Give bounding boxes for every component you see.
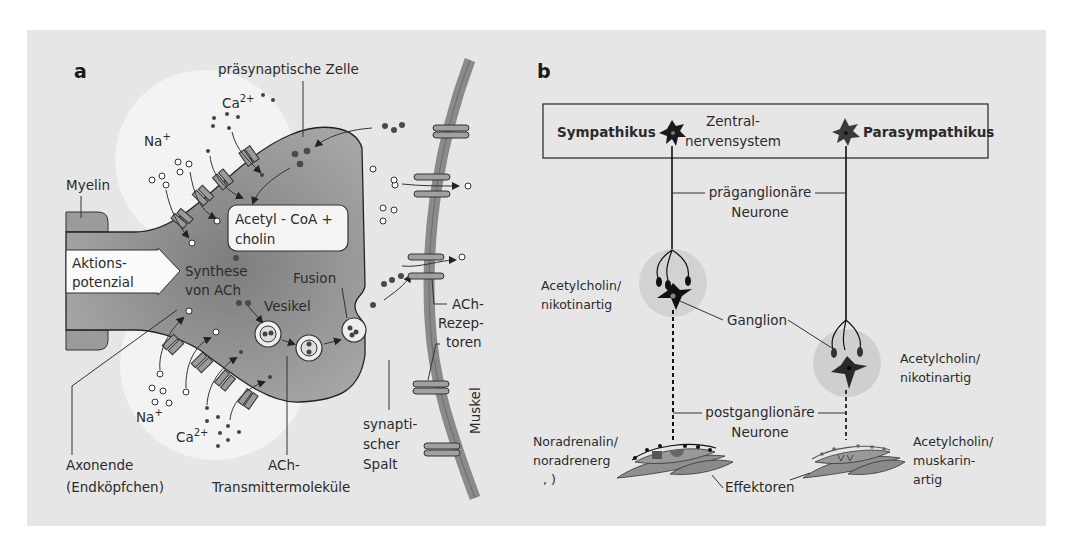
acetyl-coa-label-line1: Acetyl - CoA + xyxy=(235,211,333,227)
sympathikus-label: Sympathikus xyxy=(557,124,656,140)
synthese-label-line2: von ACh xyxy=(185,282,241,298)
acetyl-coa-label-line2: cholin xyxy=(235,231,275,247)
muskel-label: Muskel xyxy=(467,387,483,434)
synthese-label-line1: Synthese xyxy=(185,263,248,279)
vesicle-2 xyxy=(296,335,322,361)
postganglionic-label-line1: postganglionäre xyxy=(705,404,814,420)
noradrenalin-label-line1: Noradrenalin/ xyxy=(533,434,619,449)
ach-receptor-label-line1: ACh- xyxy=(452,296,484,312)
muscarinic-label-line2: muskarin- xyxy=(913,453,975,468)
effektoren-label: Effektoren xyxy=(725,479,795,495)
panel-b-letter: b xyxy=(537,60,551,82)
action-potential-label-line2: potenzial xyxy=(72,274,134,290)
myelin-bottom xyxy=(66,330,108,350)
vesikel-label: Vesikel xyxy=(264,298,311,314)
action-potential-label-line1: Aktions- xyxy=(72,255,127,271)
fusion-label: Fusion xyxy=(293,270,336,286)
preganglionic-label-line1: präganglionäre xyxy=(709,184,812,200)
cns-label-line1: Zentral- xyxy=(706,113,760,129)
noradrenalin-label-line3: , ) xyxy=(543,472,556,487)
myelin-top xyxy=(66,212,108,232)
vesicle-1 xyxy=(255,321,281,347)
spalt-label-line3: Spalt xyxy=(363,456,397,472)
ganglion-label: Ganglion xyxy=(727,312,787,328)
ach-receptor-label-line2: Rezep- xyxy=(438,315,484,331)
right-ach-nicotinic-label-line2: nikotinartig xyxy=(900,370,971,385)
noradrenalin-label-line2: noradrenerg xyxy=(533,453,610,468)
cns-label-line2: nervensystem xyxy=(685,133,781,149)
left-ach-nicotinic-label-line2: nikotinartig xyxy=(541,297,612,312)
myelin-label: Myelin xyxy=(66,177,110,193)
transmitter-label-line2: Transmittermoleküle xyxy=(211,479,350,495)
figure: a xyxy=(0,0,1073,554)
muscarinic-label-line3: artig xyxy=(913,472,942,487)
panel-a-letter: a xyxy=(74,60,87,82)
axonende-label-line2: (Endköpfchen) xyxy=(66,479,164,495)
preganglionic-label-line2: Neurone xyxy=(731,204,788,220)
left-ach-nicotinic-label-line1: Acetylcholin/ xyxy=(541,278,622,293)
axonende-label-line1: Axonende xyxy=(66,457,133,473)
parasympathikus-label: Parasympathikus xyxy=(863,124,994,140)
postganglionic-label-line2: Neurone xyxy=(731,424,788,440)
sympathetic-ganglion xyxy=(639,249,707,317)
presynaptic-cell-label: präsynaptische Zelle xyxy=(218,61,359,77)
vesicle-fusion xyxy=(342,318,366,342)
spalt-label-line2: scher xyxy=(363,436,400,452)
muscarinic-label-line1: Acetylcholin/ xyxy=(913,434,994,449)
spalt-label-line1: synapti- xyxy=(363,416,417,432)
transmitter-label-line1: ACh- xyxy=(268,457,300,473)
ach-receptor-label-line3: toren xyxy=(446,334,482,350)
right-ach-nicotinic-label-line1: Acetylcholin/ xyxy=(900,351,981,366)
